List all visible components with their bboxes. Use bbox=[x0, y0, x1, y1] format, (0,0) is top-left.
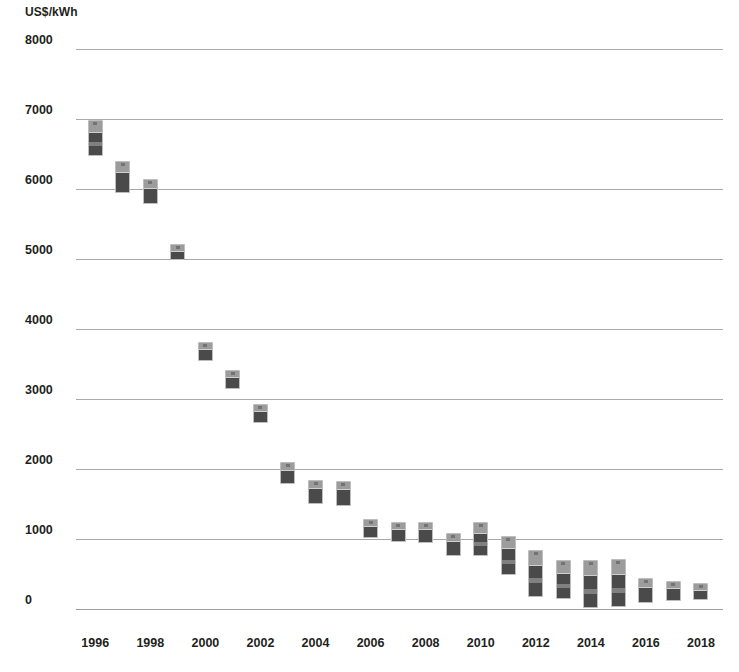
battery-marker-1996 bbox=[88, 120, 103, 156]
battery-marker-2010 bbox=[473, 522, 488, 556]
battery-marker-2013 bbox=[556, 560, 571, 599]
battery-marker-2004 bbox=[308, 480, 323, 505]
battery-marker-1999 bbox=[170, 244, 185, 261]
battery-marker-2000 bbox=[198, 342, 213, 361]
battery-terminal-icon bbox=[534, 552, 538, 555]
y-tick-label-5000: 5000 bbox=[25, 243, 53, 257]
battery-marker-2002 bbox=[253, 404, 268, 424]
gridline-2000 bbox=[76, 469, 723, 470]
battery-band-icon bbox=[584, 589, 597, 594]
battery-marker-2012 bbox=[528, 550, 543, 597]
y-tick-label-1000: 1000 bbox=[25, 523, 53, 537]
battery-terminal-icon bbox=[424, 524, 428, 527]
y-tick-label-7000: 7000 bbox=[25, 103, 53, 117]
battery-marker-2016 bbox=[638, 578, 653, 603]
battery-band-icon bbox=[502, 560, 515, 564]
battery-marker-2001 bbox=[225, 370, 240, 389]
battery-terminal-icon bbox=[671, 583, 675, 586]
gridline-7000 bbox=[76, 119, 723, 120]
x-tick-label-2010: 2010 bbox=[451, 636, 511, 650]
battery-band-icon bbox=[89, 142, 102, 146]
gridline-3000 bbox=[76, 399, 723, 400]
battery-terminal-icon bbox=[699, 585, 703, 588]
y-tick-label-6000: 6000 bbox=[25, 173, 53, 187]
x-tick-label-2002: 2002 bbox=[230, 636, 290, 650]
x-tick-label-2000: 2000 bbox=[175, 636, 235, 650]
battery-marker-2018 bbox=[693, 583, 708, 600]
battery-terminal-icon bbox=[176, 246, 180, 249]
battery-band-icon bbox=[474, 542, 487, 546]
battery-terminal-icon bbox=[561, 562, 565, 565]
x-tick-label-2012: 2012 bbox=[506, 636, 566, 650]
battery-terminal-icon bbox=[369, 521, 373, 524]
x-tick-label-1996: 1996 bbox=[65, 636, 125, 650]
battery-marker-2015 bbox=[611, 559, 626, 607]
gridline-4000 bbox=[76, 329, 723, 330]
battery-marker-2009 bbox=[446, 533, 461, 556]
y-tick-label-2000: 2000 bbox=[25, 453, 53, 467]
battery-marker-1998 bbox=[143, 179, 158, 204]
battery-marker-1997 bbox=[115, 161, 130, 193]
battery-band-icon bbox=[612, 588, 625, 593]
battery-band-icon bbox=[557, 584, 570, 588]
battery-terminal-icon bbox=[148, 181, 152, 184]
gridline-0 bbox=[76, 609, 723, 610]
battery-marker-2003 bbox=[280, 462, 295, 484]
gridline-6000 bbox=[76, 189, 723, 190]
x-tick-label-2016: 2016 bbox=[616, 636, 676, 650]
y-tick-label-3000: 3000 bbox=[25, 383, 53, 397]
battery-terminal-icon bbox=[644, 580, 648, 583]
battery-terminal-icon bbox=[258, 406, 262, 409]
chart-container: US$/kWh 80007000600050004000300020001000… bbox=[0, 0, 739, 672]
battery-marker-2007 bbox=[391, 522, 406, 542]
battery-terminal-icon bbox=[93, 122, 97, 125]
battery-terminal-icon bbox=[451, 535, 455, 538]
battery-terminal-icon bbox=[314, 482, 318, 485]
battery-terminal-icon bbox=[231, 372, 235, 375]
battery-marker-2011 bbox=[501, 536, 516, 576]
gridline-8000 bbox=[76, 49, 723, 50]
y-tick-label-4000: 4000 bbox=[25, 313, 53, 327]
x-tick-label-2018: 2018 bbox=[671, 636, 731, 650]
battery-terminal-icon bbox=[479, 524, 483, 527]
battery-terminal-icon bbox=[286, 464, 290, 467]
battery-marker-2014 bbox=[583, 560, 598, 608]
x-tick-label-2004: 2004 bbox=[286, 636, 346, 650]
y-axis-title: US$/kWh bbox=[25, 5, 78, 19]
battery-marker-2017 bbox=[666, 581, 681, 601]
x-tick-label-2006: 2006 bbox=[341, 636, 401, 650]
battery-terminal-icon bbox=[616, 561, 620, 564]
x-tick-label-2008: 2008 bbox=[396, 636, 456, 650]
battery-marker-2006 bbox=[363, 519, 378, 538]
x-tick-label-2014: 2014 bbox=[561, 636, 621, 650]
battery-terminal-icon bbox=[396, 524, 400, 527]
y-tick-label-0: 0 bbox=[25, 593, 32, 607]
battery-marker-2008 bbox=[418, 522, 433, 543]
battery-terminal-icon bbox=[589, 562, 593, 565]
battery-terminal-icon bbox=[121, 163, 125, 166]
battery-band-icon bbox=[529, 578, 542, 583]
battery-terminal-icon bbox=[203, 344, 207, 347]
y-tick-label-8000: 8000 bbox=[25, 33, 53, 47]
battery-marker-2005 bbox=[336, 481, 351, 506]
battery-terminal-icon bbox=[506, 538, 510, 541]
x-tick-label-1998: 1998 bbox=[120, 636, 180, 650]
battery-terminal-icon bbox=[341, 483, 345, 486]
